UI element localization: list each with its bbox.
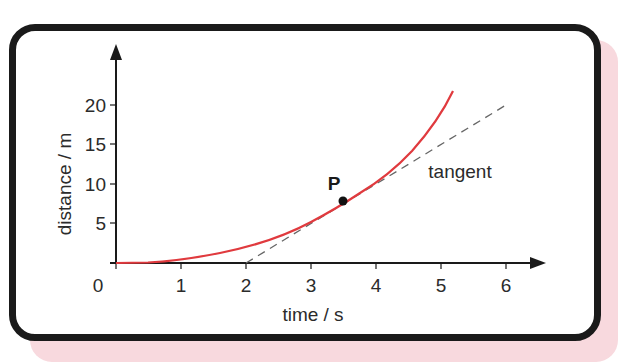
y-tick-label: 5 <box>95 213 106 234</box>
tangent-label: tangent <box>428 161 492 182</box>
x-tick-label: 6 <box>501 275 512 296</box>
tangent-line <box>246 105 506 263</box>
x-tick-label: 1 <box>176 275 187 296</box>
x-tick-label: 2 <box>241 275 252 296</box>
distance-time-curve <box>116 91 453 263</box>
point-p-label: P <box>328 173 341 194</box>
y-axis-arrow-icon <box>110 44 122 60</box>
x-axis-title: time / s <box>282 304 343 325</box>
x-tick-label: 4 <box>371 275 382 296</box>
y-tick-label: 20 <box>85 95 106 116</box>
point-p-marker <box>339 197 348 206</box>
x-tick-label: 3 <box>306 275 317 296</box>
x-tick-label: 5 <box>436 275 447 296</box>
y-tick-label: 10 <box>85 174 106 195</box>
x-axis-arrow-icon <box>530 257 546 269</box>
y-tick-label: 15 <box>85 134 106 155</box>
y-axis-title: distance / m <box>54 133 75 235</box>
x-tick-label: 0 <box>93 275 104 296</box>
